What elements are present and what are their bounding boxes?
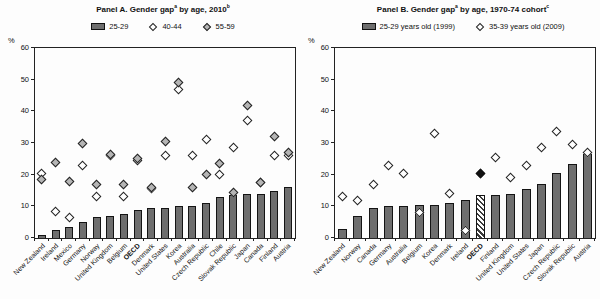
bar: [491, 195, 500, 238]
y-axis-tick-label: 10: [302, 201, 329, 210]
diamond-open-marker: [119, 192, 129, 202]
diamond-shaded-marker: [51, 157, 61, 167]
diamond-open-marker: [51, 206, 61, 216]
panel-a: Panel A. Gender gapa by age, 2010b 25-29…: [0, 0, 300, 299]
bar: [568, 164, 577, 238]
x-axis-tick: [395, 238, 396, 241]
bar: [147, 208, 155, 238]
x-axis-tick: [456, 238, 457, 241]
panel-b-legend: 25-29 years old (1999)35-39 years old (2…: [328, 22, 598, 31]
diamond-open-marker: [242, 116, 252, 126]
bar: [284, 187, 292, 238]
legend-item: 35-39 years old (2009): [475, 22, 564, 31]
title-footnote-mark: b: [227, 3, 230, 9]
legend-label: 25-29: [109, 22, 128, 31]
diamond-open-marker: [491, 152, 501, 162]
x-axis-tick: [426, 238, 427, 241]
x-axis-tick: [116, 238, 117, 241]
legend-item: 40-44: [148, 22, 181, 31]
diamond-open-marker: [384, 160, 394, 170]
diamond-open-marker: [228, 143, 238, 153]
bar: [476, 195, 485, 238]
bar: [338, 229, 347, 239]
bar: [506, 194, 515, 238]
title-text: Panel A. Gender gap: [96, 5, 174, 14]
bar: [270, 191, 278, 239]
diamond-open-marker: [552, 127, 562, 137]
x-axis-tick: [61, 238, 62, 241]
diamond-open-marker: [215, 170, 225, 180]
title-text: by age, 1970-74 cohort: [458, 5, 546, 14]
bar: [65, 227, 73, 238]
legend-label: 40-44: [162, 22, 181, 31]
x-axis-tick: [294, 238, 295, 241]
bar: [369, 208, 378, 238]
x-axis-tick: [226, 238, 227, 241]
diamond-open-marker: [160, 151, 170, 161]
x-axis-tick: [171, 238, 172, 241]
x-axis-tick: [130, 238, 131, 241]
diamond-shaded-marker: [160, 136, 170, 146]
panel-b-title: Panel B. Gender gapa by age, 1970-74 coh…: [328, 5, 598, 14]
legend-label: 25-29 years old (1999): [380, 22, 455, 31]
bar: [134, 210, 142, 239]
y-axis-tick: [31, 47, 34, 48]
bar: [52, 230, 60, 238]
bar: [229, 195, 237, 238]
bar: [106, 216, 114, 238]
bar: [583, 154, 592, 238]
diamond-open-marker: [187, 151, 197, 161]
legend-item: 55-59: [202, 22, 235, 31]
title-text: by age, 2010: [177, 5, 227, 14]
bar: [243, 194, 251, 238]
bar: [552, 173, 561, 238]
y-axis-tick: [331, 174, 334, 175]
diamond-shaded-marker: [78, 138, 88, 148]
y-axis-tick: [331, 205, 334, 206]
x-axis-tick: [349, 238, 350, 241]
diamond-open-marker: [64, 212, 74, 222]
x-axis-tick: [267, 238, 268, 241]
legend-item: 25-29: [91, 22, 128, 31]
diamond-open-marker: [338, 192, 348, 202]
y-axis-tick-label: 0: [302, 233, 329, 242]
y-axis-tick-label: 60: [2, 43, 29, 52]
legend-label: 35-39 years old (2009): [489, 22, 564, 31]
x-axis-tick: [75, 238, 76, 241]
bar: [430, 205, 439, 238]
y-axis-tick-label: 20: [2, 170, 29, 179]
y-axis-tick-label: 0: [2, 233, 29, 242]
y-axis-tick: [31, 142, 34, 143]
diamond-shaded-marker: [215, 159, 225, 169]
bar-swatch-icon: [362, 23, 376, 30]
diamond-open-marker: [506, 173, 516, 183]
x-axis-tick: [185, 238, 186, 241]
y-axis-tick: [331, 142, 334, 143]
diamond-open-marker: [270, 151, 280, 161]
diamond-shaded-marker: [270, 132, 280, 142]
bar: [445, 203, 454, 238]
x-axis-tick: [410, 238, 411, 241]
x-axis-tick: [48, 238, 49, 241]
bar: [257, 194, 265, 238]
x-axis-tick: [502, 238, 503, 241]
x-axis-tick: [198, 238, 199, 241]
x-axis-tick: [487, 238, 488, 241]
bar-swatch-icon: [91, 23, 105, 30]
bar: [537, 184, 546, 238]
panel-a-plot-area: [34, 47, 296, 239]
diamond-open-marker: [201, 135, 211, 145]
diamond-shaded-marker: [64, 176, 74, 186]
y-axis-tick-label: 40: [302, 106, 329, 115]
diamond-open-marker: [521, 160, 531, 170]
x-axis-tick: [157, 238, 158, 241]
x-axis-tick: [212, 238, 213, 241]
diamond-black-marker: [475, 168, 485, 178]
diamond-shaded-marker: [187, 182, 197, 192]
x-axis-tick: [34, 238, 35, 241]
diamond-open-marker: [78, 160, 88, 170]
x-axis-tick: [334, 238, 335, 241]
y-axis-tick-label: 40: [2, 106, 29, 115]
diamond-open-icon: [149, 22, 157, 30]
bar: [120, 214, 128, 238]
